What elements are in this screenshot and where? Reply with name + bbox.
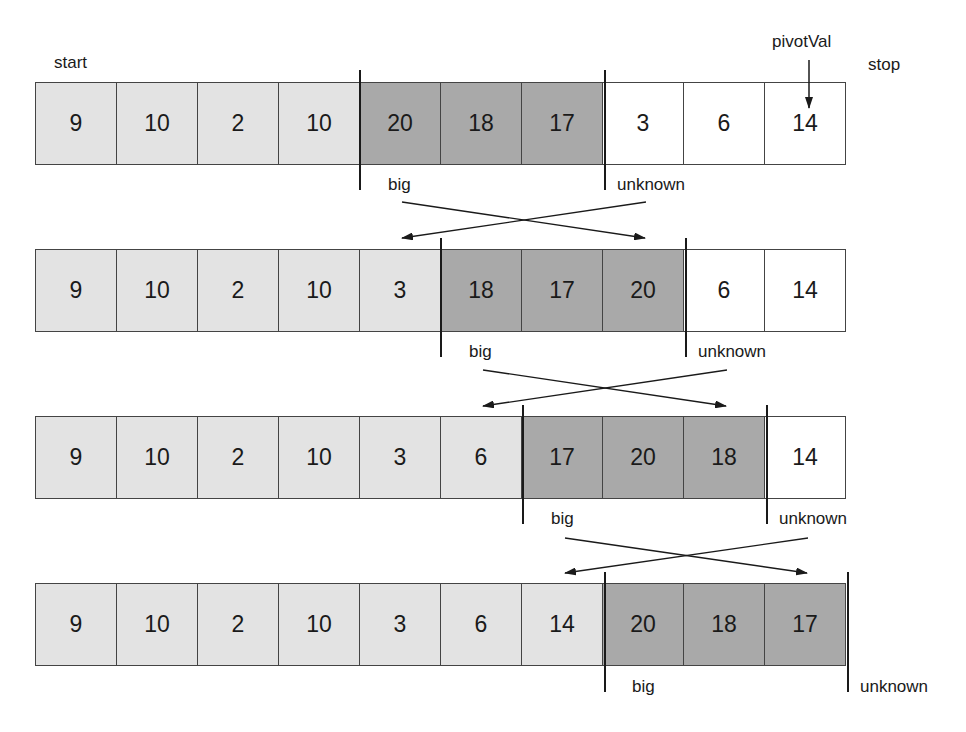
unknown-label-1: unknown <box>617 175 685 195</box>
big-label-4: big <box>632 677 655 697</box>
unknown-label-3: unknown <box>779 509 847 529</box>
big-label-3: big <box>551 509 574 529</box>
big-label-2: big <box>469 342 492 362</box>
unknown-label-2: unknown <box>698 342 766 362</box>
unknown-label-4: unknown <box>860 677 928 697</box>
big-label-1: big <box>388 175 411 195</box>
diagram-lines <box>0 0 966 732</box>
